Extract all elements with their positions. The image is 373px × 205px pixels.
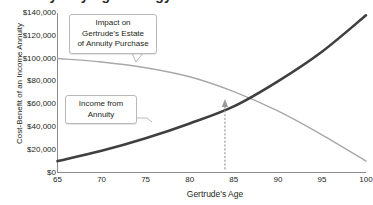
x-tick-label: 90 — [273, 176, 282, 184]
callout-estate-line-1: Impact on — [74, 18, 152, 29]
callout-income-line-2: Annuity — [70, 110, 132, 121]
annuity-cost-benefit-chart: Annuity Buying Strategy $0$20,000$40,000… — [0, 0, 373, 205]
x-tick-label: 65 — [53, 176, 62, 184]
x-tick-label: 80 — [185, 176, 194, 184]
x-tick-label: 85 — [229, 176, 238, 184]
x-axis-tick-labels: 65707580859095100 — [0, 0, 373, 205]
callout-estate-line-2: Gertrude's Estate — [74, 29, 152, 40]
x-tick-label: 70 — [97, 176, 106, 184]
callout-estate-line-3: of Annuity Purchase — [74, 39, 152, 50]
x-tick-label: 95 — [317, 176, 326, 184]
y-axis-title: Cost-Benefit of an Income Annuity — [15, 9, 24, 159]
callout-estate-impact: Impact on Gertrude's Estate of Annuity P… — [69, 14, 157, 54]
x-axis-title: Gertrude's Age — [57, 189, 373, 199]
callout-income-line-1: Income from — [70, 99, 132, 110]
x-tick-label: 100 — [359, 176, 372, 184]
callout-income-from-annuity: Income from Annuity — [65, 95, 137, 124]
x-tick-label: 75 — [141, 176, 150, 184]
